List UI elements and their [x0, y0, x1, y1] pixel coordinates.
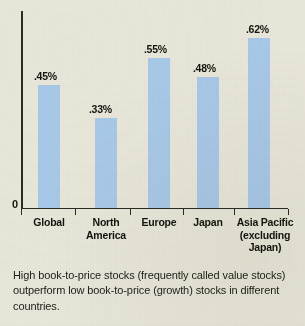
bar [148, 58, 170, 208]
bar-value-label: .55% [144, 43, 167, 55]
chart-caption: High book-to-price stocks (frequently ca… [13, 268, 295, 314]
bar [95, 118, 117, 208]
x-axis-tick [21, 209, 22, 215]
bar-value-label: .48% [193, 62, 216, 74]
bar [248, 38, 270, 208]
x-axis-tick [183, 209, 184, 215]
y-axis-zero-label: 0 [12, 198, 18, 210]
x-axis-category-label: Global [18, 216, 80, 229]
x-axis-category-label: Asia Pacific (excluding Japan) [226, 216, 304, 254]
figure-bar-chart: 0 .45%.33%.55%.48%.62% GlobalNorth Ameri… [0, 0, 305, 326]
bar [38, 85, 60, 208]
y-axis-line [21, 11, 23, 209]
x-axis-tick [130, 209, 131, 215]
x-axis-tick [234, 209, 235, 215]
bar-value-label: .45% [34, 70, 57, 82]
bar [197, 77, 219, 208]
bar-value-label: .62% [246, 23, 269, 35]
x-axis-tick [75, 209, 76, 215]
bar-value-label: .33% [89, 103, 112, 115]
plot-area: 0 .45%.33%.55%.48%.62% [0, 0, 305, 214]
x-axis-tick [288, 209, 289, 215]
